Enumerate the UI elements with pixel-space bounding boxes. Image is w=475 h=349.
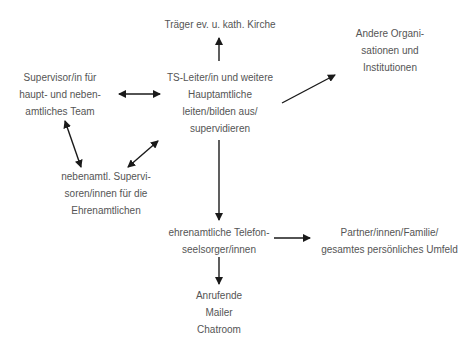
node-andere-line: Institutionen: [335, 59, 445, 76]
node-anrufende-line: Mailer: [179, 304, 259, 321]
node-ehrenamtliche-line: ehrenamtliche Telefon-: [159, 224, 279, 241]
node-andere-line: Andere Organi-: [335, 25, 445, 42]
node-supervisor-line: haupt- und neben-: [5, 86, 115, 103]
arrow-supervisor-nebenamtl: [65, 121, 81, 167]
node-ehrenamtliche-line: seelsorger/innen: [159, 241, 279, 258]
node-supervisor-team: Supervisor/in für haupt- und neben- amtl…: [5, 69, 115, 120]
node-ts-leiter: TS-Leiter/in und weitere Hauptamtliche l…: [155, 69, 285, 137]
node-partner-line: gesamtes persönliches Umfeld: [312, 241, 467, 258]
arrow-ts-to-andere: [282, 75, 335, 103]
node-traeger-line: Träger ev. u. kath. Kirche: [150, 16, 290, 33]
node-supervisor-line: Supervisor/in für: [5, 69, 115, 86]
node-nebenamtl-line: nebenamtl. Supervi-: [46, 168, 166, 185]
arrow-nebenamtl-ts: [128, 141, 158, 167]
node-ts-leiter-line: TS-Leiter/in und weitere: [155, 69, 285, 86]
node-anrufende-line: Anrufende: [179, 287, 259, 304]
node-ehrenamtliche: ehrenamtliche Telefon- seelsorger/innen: [159, 224, 279, 258]
node-nebenamtl-supervisoren: nebenamtl. Supervi- soren/innen für die …: [46, 168, 166, 219]
node-anrufende-line: Chatroom: [179, 321, 259, 338]
node-andere-organisationen: Andere Organi- sationen und Institutione…: [335, 25, 445, 76]
node-andere-line: sationen und: [335, 42, 445, 59]
node-supervisor-line: amtliches Team: [5, 103, 115, 120]
node-nebenamtl-line: soren/innen für die: [46, 185, 166, 202]
node-partner-umfeld: Partner/innen/Familie/ gesamtes persönli…: [312, 224, 467, 258]
node-traeger: Träger ev. u. kath. Kirche: [150, 16, 290, 33]
node-nebenamtl-line: Ehrenamtlichen: [46, 202, 166, 219]
node-ts-leiter-line: supervidieren: [155, 120, 285, 137]
node-ts-leiter-line: leiten/bilden aus/: [155, 103, 285, 120]
node-partner-line: Partner/innen/Familie/: [312, 224, 467, 241]
node-anrufende: Anrufende Mailer Chatroom: [179, 287, 259, 338]
node-ts-leiter-line: Hauptamtliche: [155, 86, 285, 103]
